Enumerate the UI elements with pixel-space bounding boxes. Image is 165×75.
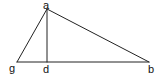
- triangle-diagram: a g d b: [0, 0, 165, 75]
- label-a: a: [43, 0, 50, 11]
- label-d: d: [43, 63, 49, 75]
- segment-ab: [47, 9, 149, 62]
- label-g: g: [9, 62, 15, 74]
- segment-ag: [17, 9, 47, 62]
- label-b: b: [148, 63, 154, 75]
